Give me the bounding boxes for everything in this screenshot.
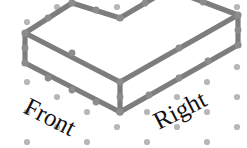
edge-node (146, 92, 153, 99)
edge-node (93, 99, 100, 106)
edge-node (45, 75, 52, 82)
grid-dot (24, 19, 30, 25)
edge-node (116, 78, 123, 85)
edge-node (116, 108, 124, 116)
edge-node (235, 27, 242, 34)
edge-node (176, 75, 183, 82)
edge-node (117, 94, 124, 101)
edge-node (234, 41, 241, 48)
edge-node (69, 50, 76, 57)
grid-dot (234, 124, 240, 130)
edge-node (234, 11, 241, 18)
edge-node (45, 15, 52, 22)
grid-dot (144, 139, 150, 145)
grid-dot (54, 94, 60, 100)
grid-dot (114, 124, 120, 130)
isometric-drawing-canvas (0, 0, 247, 148)
grid-dot (234, 4, 240, 10)
grid-dot (234, 64, 240, 70)
edge-node (21, 29, 28, 36)
edge-node (93, 7, 100, 14)
grid-dot (234, 94, 240, 100)
grid-dot (24, 139, 30, 145)
grid-dot (204, 79, 210, 85)
grid-dot (84, 109, 90, 115)
edge-node (69, 87, 76, 94)
grid-dot (204, 139, 210, 145)
edge-node (116, 14, 123, 21)
edge-node (21, 59, 28, 66)
edge-node (205, 58, 212, 65)
isometric-figure: Front Right (0, 0, 247, 148)
edge-node (22, 45, 29, 52)
grid-dot (114, 4, 120, 10)
grid-dot (24, 79, 30, 85)
edge-node (176, 45, 183, 52)
grid-dot (84, 139, 90, 145)
